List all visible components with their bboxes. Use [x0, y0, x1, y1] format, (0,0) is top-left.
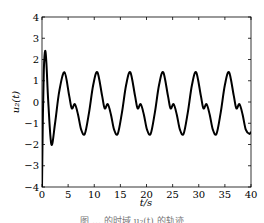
x-tick-label: 15 — [114, 189, 127, 200]
x-tick-label: 25 — [166, 189, 179, 200]
y-tick-label: 0 — [33, 97, 39, 108]
y-axis-label: u₂(t) — [10, 91, 21, 113]
x-tick-label: 35 — [219, 189, 232, 200]
x-tick-label: 40 — [245, 189, 258, 200]
y-tick-label: −1 — [24, 118, 39, 129]
line-chart: 0510152025303540−4−3−2−101234 t/s u₂(t) — [0, 0, 264, 212]
y-tick-label: 1 — [33, 75, 39, 86]
axes-box — [42, 17, 251, 187]
y-tick-label: −2 — [24, 139, 39, 150]
series-line-u2 — [42, 51, 251, 187]
y-tick-label: −4 — [24, 182, 39, 193]
plot-area — [42, 51, 251, 187]
x-tick-label: 5 — [65, 189, 71, 200]
y-tick-label: 2 — [33, 54, 39, 65]
y-tick-label: 4 — [33, 12, 39, 23]
x-axis-label: t/s — [140, 197, 153, 208]
y-tick-label: −3 — [24, 160, 39, 171]
x-tick-label: 10 — [88, 189, 101, 200]
x-tick-label: 0 — [39, 189, 45, 200]
x-tick-label: 30 — [192, 189, 205, 200]
y-tick-label: 3 — [33, 33, 39, 44]
figure-caption: 图 … 的时域 u₂(t) 的轨迹 — [0, 214, 264, 223]
